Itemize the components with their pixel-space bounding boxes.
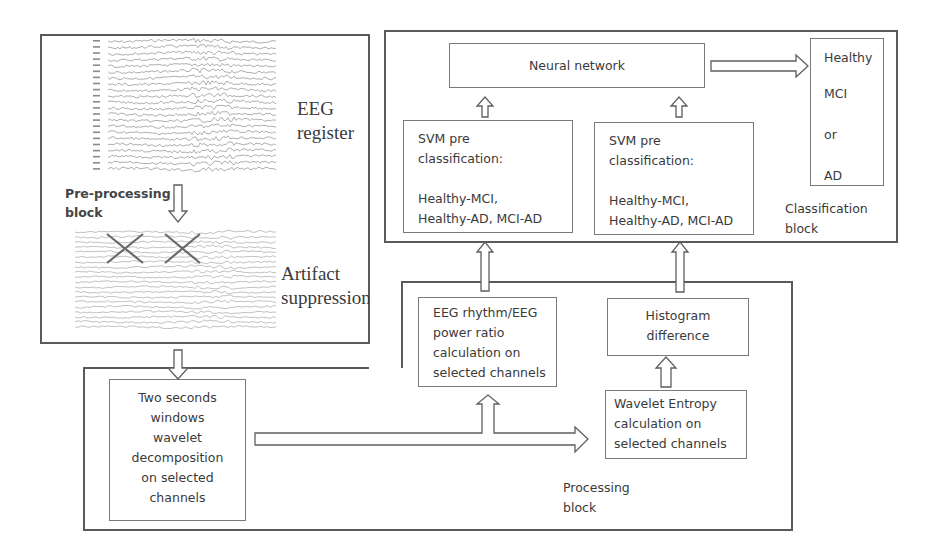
arrow-down-preprocessing-icon: [169, 185, 187, 222]
arrow-up-power-ratio-icon: [477, 242, 493, 291]
arrow-up-svm-left-icon: [477, 97, 493, 117]
arrow-up-svm-right-icon: [671, 97, 687, 117]
flow-arrows: [0, 0, 933, 558]
arrow-up-histogram-icon: [672, 242, 688, 292]
arrow-right-to-output-icon: [711, 55, 808, 77]
arrow-down-to-processing-icon: [168, 350, 188, 379]
arrow-branch-decomposition-icon: [255, 395, 588, 452]
arrow-up-entropy-icon: [656, 357, 676, 387]
